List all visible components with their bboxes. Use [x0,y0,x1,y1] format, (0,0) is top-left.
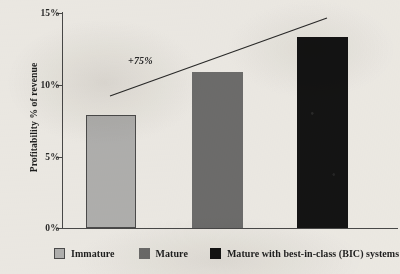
x-axis-line [62,228,398,229]
y-axis-line [62,12,63,229]
y-axis-title: Profitability % of revenue [28,23,39,213]
y-tick-label-10: 10% [20,80,60,90]
legend-item-immature[interactable]: Immature [54,248,115,259]
profitability-bar-chart: 15% 10% 5% 0% Profitability % of revenue… [0,0,400,274]
bar-mature-bic [297,37,348,228]
legend-label-mature-bic: Mature with best-in-class (BIC) systems [227,248,399,259]
y-tick-label-5: 5% [20,152,60,162]
legend-label-immature: Immature [71,248,115,259]
y-tick-label-15: 15% [20,8,60,18]
legend-label-mature: Mature [156,248,188,259]
bar-immature [86,115,136,228]
y-tick-label-0: 0% [20,223,60,233]
chart-legend: Immature Mature Mature with best-in-clas… [0,248,400,259]
legend-swatch-immature-icon [54,248,65,259]
bar-mature [192,72,243,228]
plot-area: 15% 10% 5% 0% Profitability % of revenue… [0,0,400,274]
legend-item-mature[interactable]: Mature [139,248,188,259]
growth-percentage-label: +75% [128,55,153,66]
legend-swatch-bic-icon [210,248,221,259]
legend-swatch-mature-icon [139,248,150,259]
legend-item-mature-bic[interactable]: Mature with best-in-class (BIC) systems [210,248,399,259]
